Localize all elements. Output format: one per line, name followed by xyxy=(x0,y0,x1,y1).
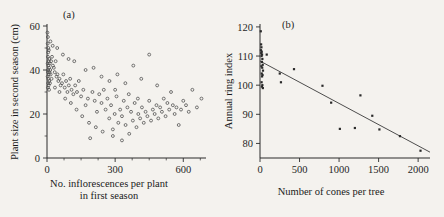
panel-a-x-tick-label: 600 xyxy=(175,164,191,175)
panel-b-y-axis-title: Annual ring index xyxy=(223,53,234,129)
panel-b-x-tick-label: 1500 xyxy=(368,164,389,175)
data-point xyxy=(61,53,64,56)
data-point xyxy=(121,115,124,118)
panel-b-x-tick-label: 2000 xyxy=(408,164,429,175)
data-point xyxy=(92,66,95,69)
data-point xyxy=(119,108,122,111)
data-point xyxy=(63,86,66,89)
data-point xyxy=(261,75,263,77)
data-point xyxy=(182,99,185,102)
data-point xyxy=(133,102,136,105)
panel-b-x-tick-label: 0 xyxy=(257,164,262,175)
data-point xyxy=(53,71,56,74)
data-point xyxy=(155,104,158,107)
data-point xyxy=(124,124,127,127)
panel-b-y-tick-label: 80 xyxy=(243,138,254,149)
data-point xyxy=(93,99,96,102)
data-point xyxy=(164,115,167,118)
data-point xyxy=(126,106,129,109)
data-point xyxy=(104,108,107,111)
data-point xyxy=(260,55,262,57)
data-point xyxy=(280,81,282,83)
data-point xyxy=(100,75,103,78)
data-point xyxy=(146,115,149,118)
data-point xyxy=(153,113,156,116)
data-point xyxy=(73,60,76,63)
data-point xyxy=(51,44,54,47)
panel-b-y-tick-label: 110 xyxy=(238,51,253,62)
data-point xyxy=(66,91,69,94)
data-point xyxy=(56,47,59,50)
data-point xyxy=(89,137,92,140)
data-point xyxy=(100,102,103,105)
data-point xyxy=(142,121,145,124)
data-point xyxy=(157,117,160,120)
data-point xyxy=(137,113,140,116)
data-point xyxy=(70,88,73,91)
data-point xyxy=(195,106,198,109)
data-point xyxy=(82,88,85,91)
data-point xyxy=(266,53,268,55)
data-point xyxy=(111,135,114,138)
panel-a-x-tick-label: 300 xyxy=(107,164,123,175)
data-point xyxy=(162,97,165,100)
data-point xyxy=(65,80,68,83)
data-point xyxy=(177,124,180,127)
panel-a-x-tick-label: 0 xyxy=(44,164,49,175)
data-point xyxy=(69,77,72,80)
data-point xyxy=(128,132,131,135)
data-point xyxy=(136,97,139,100)
data-point xyxy=(69,102,72,105)
data-point xyxy=(67,58,70,61)
data-point xyxy=(72,93,75,96)
data-point xyxy=(86,97,89,100)
data-point xyxy=(81,115,84,118)
data-point xyxy=(127,93,130,96)
data-point xyxy=(261,61,263,63)
panel-b-x-tick-label: 500 xyxy=(292,164,308,175)
data-point xyxy=(180,108,183,111)
panel-a-y-axis-title: Plant size in second season (cm) xyxy=(9,24,20,160)
data-point xyxy=(141,106,144,109)
data-point xyxy=(101,130,104,133)
data-point xyxy=(122,99,125,102)
data-point xyxy=(293,68,295,70)
data-point xyxy=(419,150,421,152)
data-point xyxy=(151,108,154,111)
data-point xyxy=(77,80,80,83)
data-point xyxy=(62,73,65,76)
data-point xyxy=(54,60,57,63)
data-point xyxy=(371,115,373,117)
panel-b: 80901001101200500100015002000(b) Number … xyxy=(212,0,444,217)
data-point xyxy=(67,84,70,87)
regression-line xyxy=(260,61,430,152)
data-point xyxy=(75,108,78,111)
data-point xyxy=(111,128,114,131)
data-point xyxy=(113,113,116,116)
panel-b-y-tick-label: 120 xyxy=(237,22,253,33)
data-point xyxy=(58,91,61,94)
data-point xyxy=(170,91,173,94)
data-point xyxy=(121,139,124,142)
data-point xyxy=(108,80,111,83)
data-point xyxy=(150,119,153,122)
data-point xyxy=(187,110,190,113)
data-point xyxy=(88,121,91,124)
data-point xyxy=(185,104,188,107)
data-point xyxy=(50,77,53,80)
data-point xyxy=(354,127,356,129)
data-point xyxy=(80,95,83,98)
data-point xyxy=(115,95,118,98)
data-point xyxy=(261,67,263,69)
figure-container: 02040600300600(a) No. inflorescences per… xyxy=(0,0,444,217)
data-point xyxy=(74,84,77,87)
data-point xyxy=(130,110,133,113)
data-point xyxy=(116,73,119,76)
data-point xyxy=(140,77,143,80)
data-point xyxy=(124,82,127,85)
data-point xyxy=(260,46,262,48)
data-point xyxy=(117,121,120,124)
data-point xyxy=(160,110,163,113)
data-point xyxy=(156,84,159,87)
panel-b-plot: 80901001101200500100015002000(b) xyxy=(212,0,444,180)
